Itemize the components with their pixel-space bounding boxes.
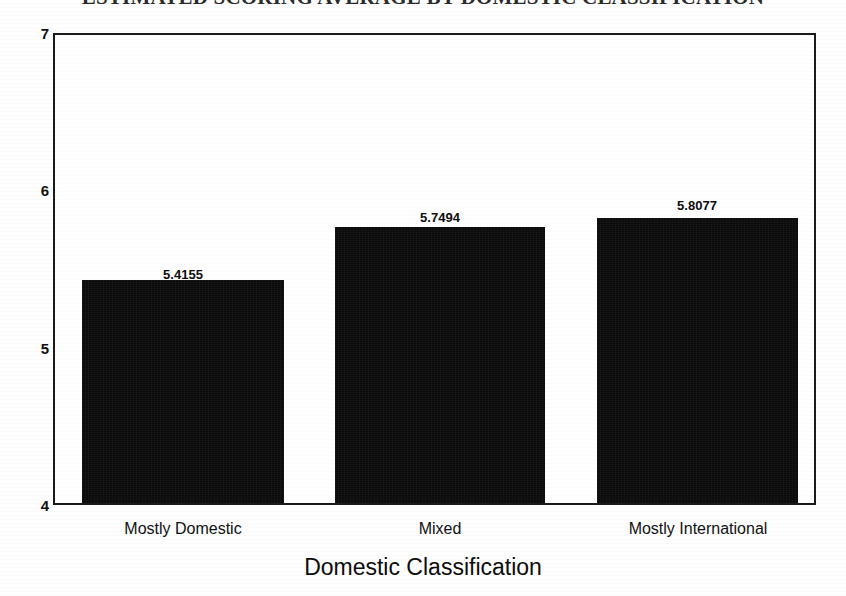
y-axis: 7 6 5 4 <box>0 0 49 596</box>
y-tick-label-5: 5 <box>9 341 49 356</box>
x-tick-label-mixed: Mixed <box>317 521 563 537</box>
bar-value-label-mostly-domestic: 5.4155 <box>130 268 236 281</box>
bar-value-label-mostly-international: 5.8077 <box>644 199 750 212</box>
bar-mostly-domestic <box>82 280 284 503</box>
chart-title-clipped: ESTIMATED SCORING AVERAGE BY DOMESTIC CL… <box>0 0 846 10</box>
x-tick-label-mostly-domestic: Mostly Domestic <box>55 521 311 537</box>
y-tick-label-4: 4 <box>9 498 49 513</box>
bar-mixed <box>335 227 545 503</box>
chart-title-text: ESTIMATED SCORING AVERAGE BY DOMESTIC CL… <box>82 0 764 10</box>
y-tick-label-7: 7 <box>9 26 49 41</box>
y-tick-label-6: 6 <box>9 183 49 198</box>
x-axis-title: Domestic Classification <box>0 556 846 579</box>
bar-chart-figure: ESTIMATED SCORING AVERAGE BY DOMESTIC CL… <box>0 0 846 596</box>
bar-value-label-mixed: 5.7494 <box>387 211 493 224</box>
bar-mostly-international <box>597 218 798 503</box>
x-tick-label-mostly-international: Mostly International <box>570 521 826 537</box>
